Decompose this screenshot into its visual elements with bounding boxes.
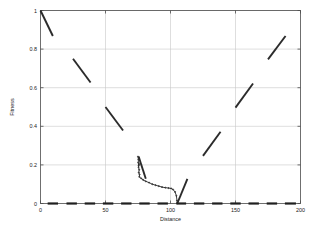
x-axis-title: Distance (160, 216, 181, 222)
y-tick-label: 0.2 (30, 162, 38, 168)
x-tick-label: 200 (296, 207, 305, 213)
y-tick-label: 1 (34, 8, 37, 14)
chart-canvas: 05010015020000.20.40.60.81DistanceFitnes… (0, 0, 311, 229)
x-tick-label: 100 (166, 207, 175, 213)
y-axis-title: Fitness (9, 98, 15, 116)
y-tick-label: 0.4 (30, 123, 38, 129)
data-segment (203, 132, 221, 156)
data-segment (268, 36, 286, 59)
data-segment (73, 59, 91, 83)
y-tick-label: 0 (34, 201, 37, 207)
y-tick-label: 0.6 (30, 85, 38, 91)
data-segment (106, 107, 124, 131)
y-tick-label: 0.8 (30, 46, 38, 52)
x-tick-label: 50 (103, 207, 109, 213)
x-tick-label: 150 (231, 207, 240, 213)
data-segment (236, 83, 254, 107)
data-segment (177, 179, 187, 204)
x-tick-label: 0 (39, 207, 42, 213)
figure-container: 05010015020000.20.40.60.81DistanceFitnes… (0, 0, 311, 229)
data-segment (41, 11, 53, 36)
